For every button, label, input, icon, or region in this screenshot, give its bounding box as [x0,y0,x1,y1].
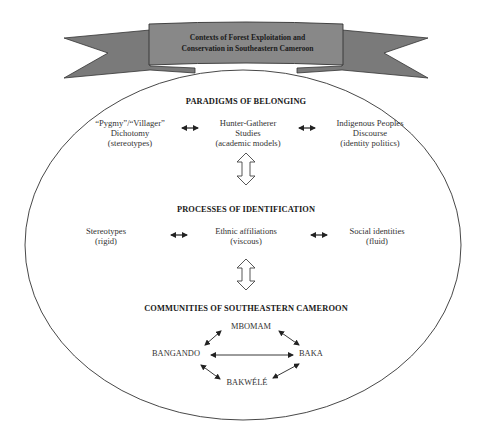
process-item-ethnic-affiliations: Ethnic affiliations (viscous) [196,226,296,246]
communities-heading: COMMUNITIES OF SOUTHEASTERN CAMEROON [126,304,366,313]
item-line: (stereotypes) [80,138,180,148]
hollow-double-arrow-icon [237,153,255,185]
paradigm-item-indigenous-peoples: Indigenous Peoples Discourse (identity p… [320,118,420,148]
item-line: (viscous) [196,236,296,246]
banner-title-line-2: Conservation in Southeastern Cameroon [150,44,345,55]
item-line: “Pygmy”/“Villager” [80,118,180,128]
paradigm-item-pygmy-villager: “Pygmy”/“Villager” Dichotomy (stereotype… [80,118,180,148]
item-line: Social identities [334,226,420,236]
item-line: (academic models) [198,138,298,148]
paradigm-item-hunter-gatherer: Hunter-Gatherer Studies (academic models… [198,118,298,148]
item-line: (rigid) [66,236,146,246]
node-mbomam: MBOMAM [226,322,276,331]
item-line: Discourse [320,128,420,138]
process-item-stereotypes: Stereotypes (rigid) [66,226,146,246]
banner-title-line-1: Contexts of Forest Exploitation and [150,33,345,44]
paradigms-heading: PARADIGMS OF BELONGING [146,97,346,106]
banner-title: Contexts of Forest Exploitation and Cons… [150,33,345,54]
arrow-mbomam-bangando [205,331,221,345]
hollow-double-arrow-icon [237,259,255,290]
process-item-social-identities: Social identities (fluid) [334,226,420,246]
item-line: (identity politics) [320,138,420,148]
diagram-canvas: Contexts of Forest Exploitation and Cons… [0,0,480,443]
node-bangando: BANGANDO [152,349,200,358]
item-line: Indigenous Peoples [320,118,420,128]
node-baka: BAKA [299,349,323,358]
item-line: Ethnic affiliations [196,226,296,236]
item-line: Studies [198,128,298,138]
processes-heading: PROCESSES OF IDENTIFICATION [146,205,346,214]
node-bakwele: BAKWÉLÉ [222,378,272,387]
item-line: Stereotypes [66,226,146,236]
item-line: Hunter-Gatherer [198,118,298,128]
arrow-mbomam-baka [279,331,299,345]
arrow-bangando-bakwele [201,365,220,379]
diagram-graphics [0,0,480,443]
item-line: (fluid) [334,236,420,246]
arrow-baka-bakwele [273,364,299,378]
item-line: Dichotomy [80,128,180,138]
